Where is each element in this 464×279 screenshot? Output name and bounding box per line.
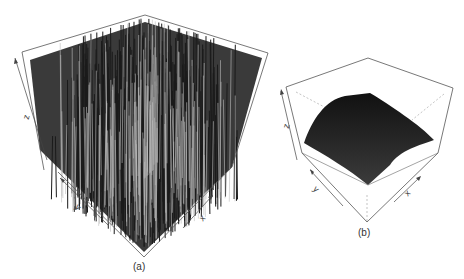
panel-b-caption: (b) [358, 227, 370, 238]
panel-b-plot [280, 58, 453, 222]
panel-a-plot [14, 15, 268, 257]
figure-canvas [0, 0, 464, 279]
panel-a-caption: (a) [133, 261, 145, 272]
